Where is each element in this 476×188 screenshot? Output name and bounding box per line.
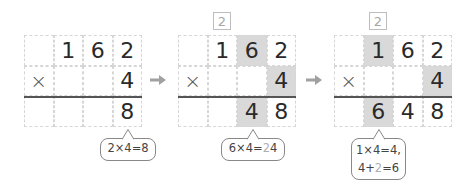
digit-cell — [83, 96, 113, 127]
digit-cell — [364, 66, 394, 97]
digit-cell — [237, 66, 267, 97]
bubble-line: 1×4=4, — [352, 141, 405, 159]
bubble-line: 4+2=6 — [352, 159, 405, 177]
bubble-line: 6×4=24 — [222, 139, 284, 157]
step2-explanation-bubble: 6×4=24 — [221, 138, 285, 161]
digit-cell: 4 — [113, 66, 143, 97]
carry-digit: 2 — [263, 141, 270, 155]
digit-cell: 2 — [423, 35, 453, 66]
digit-cell: 8 — [113, 96, 143, 127]
digit-cell: 6 — [364, 96, 394, 127]
equation-text: 2×4=8 — [107, 141, 148, 155]
step3-carry-box: 2 — [369, 12, 387, 30]
result-rule — [178, 96, 296, 98]
arrow-right-icon — [306, 75, 322, 85]
digit-cell — [24, 35, 54, 66]
equation-text: 6×4= — [229, 141, 263, 155]
digit-cell: 8 — [423, 96, 453, 127]
multiply-sign: × — [178, 66, 208, 97]
digit-cell: 1 — [364, 35, 394, 66]
equation-text: 4 — [270, 141, 277, 155]
digit-cell — [208, 96, 238, 127]
digit-cell — [178, 35, 208, 66]
equation-text: =6 — [382, 161, 399, 175]
digit-cell: 6 — [237, 35, 267, 66]
arrow-right-icon — [150, 75, 166, 85]
multiply-sign: × — [24, 66, 54, 97]
equation-text: 4+ — [358, 161, 375, 175]
digit-cell — [54, 66, 84, 97]
digit-cell: 4 — [267, 66, 297, 97]
step3-grid: 162×4648 — [334, 35, 452, 127]
step1-grid: 162×48 — [24, 35, 142, 127]
digit-cell — [208, 66, 238, 97]
digit-cell — [83, 66, 113, 97]
digit-cell: 4 — [423, 66, 453, 97]
digit-cell: 6 — [83, 35, 113, 66]
multiply-sign: × — [334, 66, 364, 97]
bubble-line: 2×4=8 — [101, 139, 155, 157]
digit-cell — [334, 96, 364, 127]
digit-cell: 6 — [393, 35, 423, 66]
digit-cell: 2 — [113, 35, 143, 66]
digit-cell — [334, 35, 364, 66]
step2-carry-box: 2 — [213, 12, 231, 30]
digit-cell — [393, 66, 423, 97]
digit-cell: 1 — [54, 35, 84, 66]
equation-text: 1×4=4, — [356, 143, 401, 157]
digit-cell: 4 — [393, 96, 423, 127]
step2-grid: 162×448 — [178, 35, 296, 127]
result-rule — [334, 96, 452, 98]
step1-explanation-bubble: 2×4=8 — [100, 138, 156, 161]
digit-cell: 1 — [208, 35, 238, 66]
digit-cell: 2 — [267, 35, 297, 66]
digit-cell: 8 — [267, 96, 297, 127]
digit-cell — [54, 96, 84, 127]
digit-cell — [178, 96, 208, 127]
digit-cell — [24, 96, 54, 127]
result-rule — [24, 96, 142, 98]
digit-cell: 4 — [237, 96, 267, 127]
step3-explanation-bubble: 1×4=4,4+2=6 — [351, 138, 406, 180]
